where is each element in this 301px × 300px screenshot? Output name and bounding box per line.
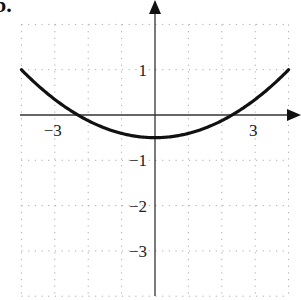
y-tick-label: −2 <box>129 197 147 216</box>
x-tick-label: −3 <box>44 121 62 140</box>
y-tick-label: 1 <box>139 61 148 80</box>
axes <box>20 0 301 296</box>
y-tick-label: −3 <box>129 242 147 261</box>
y-axis-arrow-icon <box>149 0 161 14</box>
x-axis-arrow-icon <box>287 109 301 121</box>
y-tick-label: −1 <box>129 151 147 170</box>
x-tick-label: 3 <box>249 121 258 140</box>
chart: −331−1−2−3 <box>0 0 301 300</box>
